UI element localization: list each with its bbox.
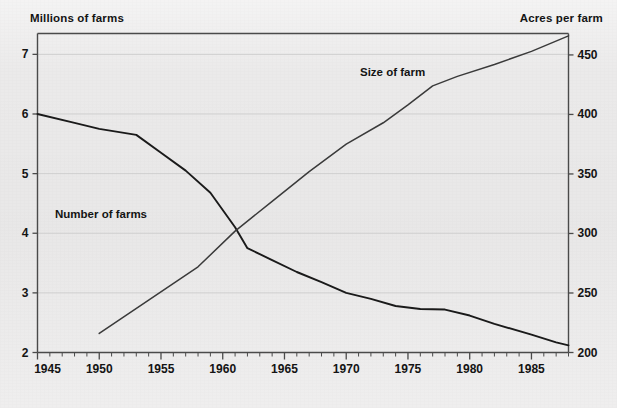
series-line-number-of-farms xyxy=(38,114,569,345)
y2-axis-tick-label: 300 xyxy=(578,226,598,240)
chart-container: Millions of farms Acres per farm 234567 … xyxy=(0,0,617,408)
y2-axis-tick-label: 200 xyxy=(578,346,598,360)
x-axis-tick-label: 1970 xyxy=(333,362,360,376)
y-axis-tick-label: 6 xyxy=(22,107,29,121)
x-axis-tick-label: 1975 xyxy=(395,362,422,376)
y-axis-tick-label: 3 xyxy=(22,286,29,300)
x-axis-tick-label: 1980 xyxy=(456,362,483,376)
x-axis-tick-label: 1955 xyxy=(148,362,175,376)
gridlines xyxy=(38,54,569,293)
x-axis-tick-label: 1945 xyxy=(34,362,61,376)
y-axis-tick-label: 4 xyxy=(22,226,29,240)
chart-plot-area xyxy=(0,0,617,408)
series-label-size-of-farm: Size of farm xyxy=(360,66,425,78)
axis-ticks xyxy=(33,54,574,359)
x-axis-tick-label: 1965 xyxy=(271,362,298,376)
x-axis-tick-label: 1985 xyxy=(518,362,545,376)
series-line-size-of-farm xyxy=(99,36,568,334)
y2-axis-tick-label: 450 xyxy=(578,48,598,62)
series-label-number-of-farms: Number of farms xyxy=(55,208,147,220)
y-axis-tick-label: 2 xyxy=(22,346,29,360)
x-axis-tick-label: 1960 xyxy=(209,362,236,376)
y2-axis-tick-label: 350 xyxy=(578,167,598,181)
axis-frame xyxy=(38,34,569,353)
data-series xyxy=(38,36,569,345)
y-axis-tick-label: 5 xyxy=(22,167,29,181)
y2-axis-tick-label: 250 xyxy=(578,286,598,300)
x-axis-tick-label: 1950 xyxy=(86,362,113,376)
y2-axis-tick-label: 400 xyxy=(578,107,598,121)
y-axis-tick-label: 7 xyxy=(22,47,29,61)
